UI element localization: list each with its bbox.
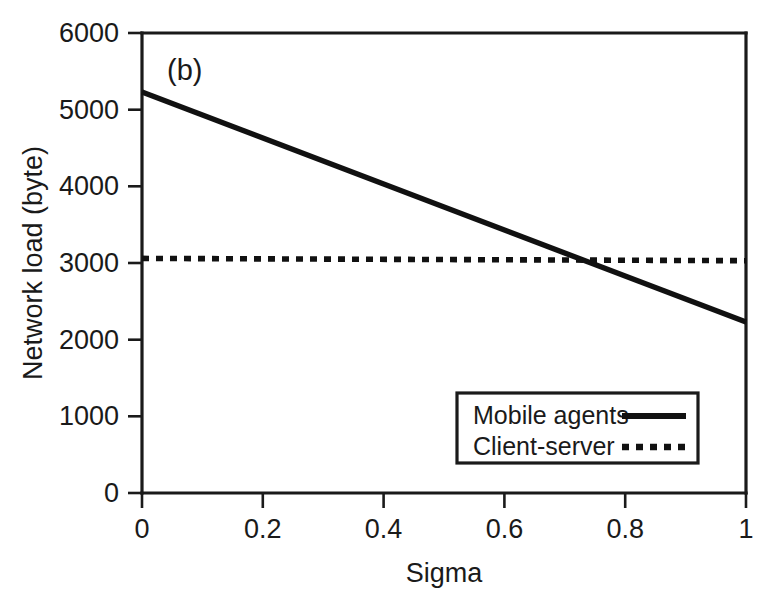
x-tick-label-0.8: 0.8 bbox=[606, 514, 644, 544]
y-axis-tick-labels: 0 1000 2000 3000 4000 5000 6000 bbox=[59, 18, 119, 508]
x-tick-label-1: 1 bbox=[738, 514, 753, 544]
x-tick-label-0.4: 0.4 bbox=[365, 514, 403, 544]
x-axis-tick-labels: 0 0.2 0.4 0.6 0.8 1 bbox=[134, 514, 753, 544]
y-tick-label-5000: 5000 bbox=[59, 95, 119, 125]
series-line-mobile-agents bbox=[142, 92, 746, 322]
legend-label-mobile-agents: Mobile agents bbox=[473, 401, 629, 429]
x-axis-ticks bbox=[142, 493, 746, 508]
legend-label-client-server: Client-server bbox=[473, 432, 615, 460]
y-tick-label-0: 0 bbox=[104, 478, 119, 508]
x-tick-label-0.6: 0.6 bbox=[486, 514, 524, 544]
y-tick-label-3000: 3000 bbox=[59, 248, 119, 278]
y-tick-label-6000: 6000 bbox=[59, 18, 119, 48]
y-tick-label-2000: 2000 bbox=[59, 325, 119, 355]
x-tick-label-0.2: 0.2 bbox=[244, 514, 282, 544]
y-axis-title: Network load (byte) bbox=[18, 146, 48, 380]
y-axis-ticks bbox=[128, 33, 142, 493]
figure-container: 0 1000 2000 3000 4000 5000 6000 0 0.2 0.… bbox=[0, 0, 772, 601]
series-line-client-server bbox=[142, 258, 746, 260]
legend: Mobile agents Client-server bbox=[457, 393, 698, 463]
x-tick-label-0: 0 bbox=[134, 514, 149, 544]
chart-canvas: 0 1000 2000 3000 4000 5000 6000 0 0.2 0.… bbox=[0, 0, 772, 601]
panel-label: (b) bbox=[167, 54, 202, 86]
y-tick-label-1000: 1000 bbox=[59, 401, 119, 431]
y-tick-label-4000: 4000 bbox=[59, 171, 119, 201]
x-axis-title: Sigma bbox=[406, 558, 484, 588]
